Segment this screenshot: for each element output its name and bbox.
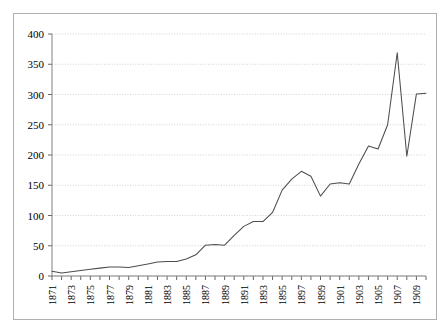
x-tick-label: 1907: [392, 285, 403, 305]
x-tick-label: 1877: [105, 285, 116, 305]
x-tick-label: 1871: [47, 285, 58, 305]
gridlines-group: [52, 34, 426, 276]
y-tick-label: 300: [28, 89, 45, 101]
y-tick-label: 250: [28, 119, 45, 131]
y-tick-label: 200: [28, 149, 45, 161]
chart-figure: 050100150200250300350400 187118731875187…: [13, 13, 437, 320]
y-axis-labels: 050100150200250300350400: [28, 28, 45, 282]
x-tick-label: 1895: [277, 285, 288, 305]
x-tick-label: 1881: [143, 285, 154, 305]
x-tick-label: 1885: [181, 285, 192, 305]
x-tick-label: 1889: [220, 285, 231, 305]
x-tick-label: 1903: [354, 285, 365, 305]
x-tick-label: 1897: [296, 285, 307, 305]
x-tick-label: 1883: [162, 285, 173, 305]
x-axis-labels: 1871187318751877187918811883188518871889…: [47, 285, 422, 305]
y-tick-label: 100: [28, 210, 45, 222]
x-tick-group: [52, 276, 426, 280]
y-tick-label: 400: [28, 28, 45, 40]
y-tick-label: 150: [28, 179, 45, 191]
y-tick-label: 50: [33, 240, 45, 252]
data-series-line: [52, 53, 426, 273]
x-tick-label: 1905: [373, 285, 384, 305]
x-tick-label: 1887: [200, 285, 211, 305]
x-tick-label: 1873: [66, 285, 77, 305]
x-tick-label: 1901: [335, 285, 346, 305]
x-tick-label: 1893: [258, 285, 269, 305]
x-tick-label: 1891: [239, 285, 250, 305]
x-tick-label: 1875: [85, 285, 96, 305]
x-tick-label: 1879: [124, 285, 135, 305]
line-chart-svg: 050100150200250300350400 187118731875187…: [14, 14, 438, 321]
x-tick-label: 1899: [316, 285, 327, 305]
plot-area: 050100150200250300350400 187118731875187…: [14, 14, 438, 321]
y-tick-label: 0: [39, 270, 45, 282]
y-tick-group: [48, 34, 52, 276]
x-tick-label: 1909: [411, 285, 422, 305]
y-tick-label: 350: [28, 58, 45, 70]
